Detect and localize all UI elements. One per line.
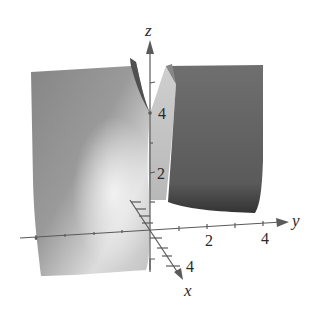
origin-point	[148, 111, 152, 115]
z-arrow-icon	[146, 40, 154, 54]
z-axis-label: z	[144, 21, 152, 40]
y-arrow-icon	[276, 218, 289, 227]
right-surface	[166, 64, 263, 213]
y-tick-2: 2	[205, 232, 213, 249]
surface-plot: z 4 2 y 2 4 4 x	[0, 0, 320, 319]
y-tick-4: 4	[261, 230, 269, 247]
x-axis-label: x	[183, 281, 192, 300]
z-tick-2: 2	[157, 165, 165, 182]
z-tick-4: 4	[158, 105, 166, 122]
y-axis-label: y	[290, 211, 300, 230]
left-surface	[31, 58, 150, 276]
x-tick-4: 4	[186, 258, 194, 275]
